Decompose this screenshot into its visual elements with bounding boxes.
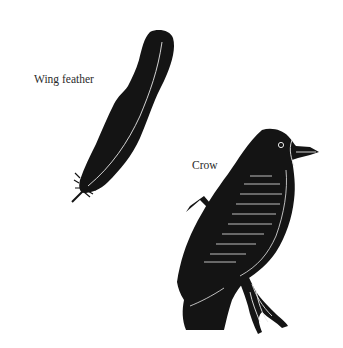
figure-illustration bbox=[0, 0, 343, 348]
feather-quill bbox=[72, 190, 84, 202]
figure: Wing feather Crow bbox=[0, 0, 343, 348]
wing-feather-illustration bbox=[72, 30, 174, 202]
wing-feather-label: Wing feather bbox=[34, 74, 94, 86]
crow-label: Crow bbox=[192, 160, 218, 172]
